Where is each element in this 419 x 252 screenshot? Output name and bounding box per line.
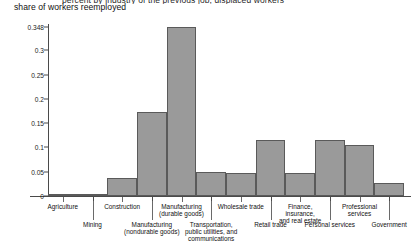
y-axis-tick-mark [44,123,48,124]
bar-chart-figure: percent by industry of the previous job,… [0,0,419,252]
bar [226,173,256,196]
label-leader-line [241,197,242,202]
chart-subtitle: share of workers reemployed [14,2,126,12]
x-axis-category-label: Construction [94,203,150,210]
label-leader-line [389,201,390,220]
label-leader-line [300,197,301,202]
x-axis-category-label: Government [361,221,417,228]
x-axis-category-label: Manufacturing(durable goods) [154,203,210,217]
x-axis-category-label: Personal services [302,221,358,228]
bar [107,178,137,196]
bar [167,27,197,196]
bar [196,172,226,196]
x-axis-category-label: Wholesale trade [213,203,269,210]
y-axis-tick-mark [44,27,48,28]
label-leader-line [182,197,183,202]
x-axis-line [30,196,411,197]
label-leader-line [63,197,64,202]
y-axis-tick-mark [44,171,48,172]
y-axis-tick-mark [44,74,48,75]
y-axis-tick-mark [44,147,48,148]
label-leader-line [330,201,331,220]
x-axis-category-label: Mining [65,221,121,228]
bar [374,183,404,196]
bar [315,140,345,196]
y-axis-tick-mark [44,98,48,99]
x-axis-category-label: Manufacturing(nondurable goods) [124,221,180,235]
y-axis-tick-mark [44,50,48,51]
bar [256,140,286,196]
x-axis-category-label: Agriculture [35,203,91,210]
x-axis-category-label: Professionalservices [332,203,388,217]
label-leader-line [152,201,153,220]
label-leader-line [360,197,361,202]
bar [137,112,167,196]
label-leader-line [211,201,212,220]
plot-area: 00.050.10.150.20.250.30.348 [48,27,404,196]
bar [345,145,375,196]
label-leader-line [122,197,123,202]
bar [285,173,315,196]
x-axis-category-label: Transportation,public utilities, andcomm… [183,221,239,243]
